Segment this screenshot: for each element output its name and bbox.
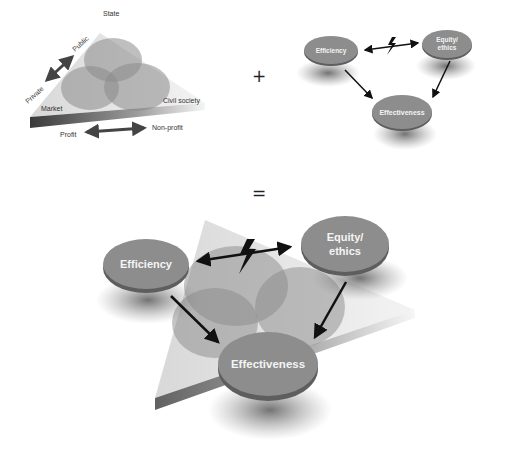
combined-equity-label-line1: Equity/ <box>327 231 364 243</box>
civil-society-circle <box>104 63 170 111</box>
label-profit: Profit <box>60 131 76 138</box>
efficiency-label: Efficiency <box>316 47 347 55</box>
plus-operator: + <box>252 66 266 86</box>
label-market: Market <box>41 105 62 112</box>
equity-label-line2: ethics <box>438 44 457 51</box>
combined-equity-disc <box>301 216 389 272</box>
three-e-diagram: Efficiency Equity/ ethics Effectiveness <box>296 30 476 150</box>
combined-diagram: Efficiency Equity/ ethics Effectiveness <box>96 216 415 440</box>
sector-triangle-diagram: State Market Civil society Private Publi… <box>24 10 205 138</box>
label-civil-society: Civil society <box>163 97 200 105</box>
combined-effectiveness-label: Effectiveness <box>231 358 305 370</box>
equals-operator: = <box>252 183 266 203</box>
combined-equity-label-line2: ethics <box>329 245 361 257</box>
diagram-canvas: State Market Civil society Private Publi… <box>0 0 505 461</box>
label-non-profit: Non-profit <box>152 124 183 132</box>
label-private: Private <box>24 85 45 105</box>
effectiveness-label: Effectiveness <box>379 109 424 116</box>
combined-efficiency-label: Efficiency <box>120 258 173 270</box>
profit-nonprofit-arrow <box>87 128 144 132</box>
label-state: State <box>103 10 119 17</box>
equity-label-line1: Equity/ <box>436 36 458 44</box>
